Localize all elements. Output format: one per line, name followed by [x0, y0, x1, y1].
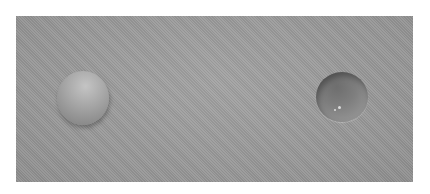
convex-sphere — [57, 71, 109, 125]
highlight-glint — [338, 106, 341, 109]
photo-surface — [16, 16, 413, 182]
concave-dish — [316, 72, 368, 122]
highlight-glint — [334, 109, 336, 111]
